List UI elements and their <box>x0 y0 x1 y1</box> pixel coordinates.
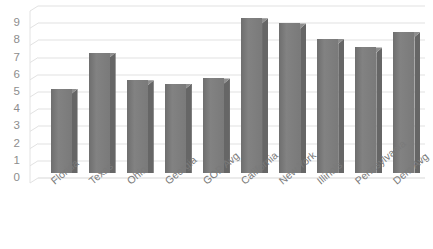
bar-group[interactable] <box>393 32 414 178</box>
y-axis-tick-label: 6 <box>0 69 20 81</box>
bar-side-face <box>110 53 116 173</box>
y-axis-tick-label: 2 <box>0 138 20 150</box>
y-axis-tick-label: 8 <box>0 35 20 47</box>
bar-side-face <box>338 39 344 173</box>
x-axis: FloridaTexasOhioGeorgiaGOP AvgCalifornia… <box>30 178 425 249</box>
bar-series <box>30 6 425 178</box>
bar-side-face <box>262 18 268 173</box>
bar[interactable] <box>89 53 110 173</box>
plot-area <box>30 6 425 178</box>
bar-group[interactable] <box>241 18 262 178</box>
y-axis-tick-label: 5 <box>0 86 20 98</box>
y-axis-tick-label: 9 <box>0 17 20 29</box>
bar-side-face <box>300 23 306 173</box>
bar[interactable] <box>279 23 300 173</box>
y-axis-tick-label: 1 <box>0 155 20 167</box>
bar[interactable] <box>241 18 262 173</box>
bar-chart: 9876543210 FloridaTexasOhioGeorgiaGOP Av… <box>0 0 433 249</box>
y-axis-tick-label: 4 <box>0 103 20 115</box>
y-axis: 9876543210 <box>0 0 30 249</box>
bar-group[interactable] <box>279 23 300 178</box>
y-axis-tick-label: 0 <box>0 172 20 184</box>
bar-group[interactable] <box>127 80 148 178</box>
y-axis-tick-label: 7 <box>0 52 20 64</box>
y-axis-tick-label: 3 <box>0 121 20 133</box>
bar[interactable] <box>127 80 148 173</box>
bar[interactable] <box>317 39 338 173</box>
bar[interactable] <box>355 47 376 173</box>
bar-side-face <box>148 80 154 173</box>
bar-group[interactable] <box>317 39 338 178</box>
